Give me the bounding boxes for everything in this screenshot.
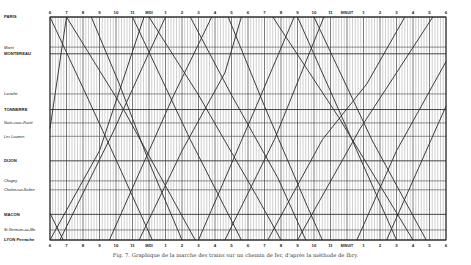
hour-label-top: 6 bbox=[247, 10, 250, 15]
hour-label-top: 8 bbox=[280, 10, 283, 15]
hour-label-bottom: 6 bbox=[247, 243, 250, 248]
train-path bbox=[50, 17, 152, 240]
hour-label-bottom: 4 bbox=[412, 243, 415, 248]
train-path bbox=[268, 17, 405, 240]
train-path bbox=[273, 17, 413, 240]
hour-label-bottom: 3 bbox=[197, 243, 200, 248]
hour-label-bottom: 7 bbox=[263, 243, 266, 248]
hour-label-bottom: 2 bbox=[379, 243, 382, 248]
hour-label-bottom: 11 bbox=[328, 243, 333, 248]
train-path bbox=[60, 17, 166, 240]
hour-label-top: 9 bbox=[296, 10, 299, 15]
hour-label-top: 5 bbox=[230, 10, 233, 15]
train-path bbox=[298, 17, 433, 240]
hour-label-top: 8 bbox=[82, 10, 85, 15]
hour-label-top: 2 bbox=[181, 10, 184, 15]
hour-label-top: MINUIT bbox=[341, 11, 354, 15]
hour-label-top: 1 bbox=[164, 10, 167, 15]
hour-label-bottom: 1 bbox=[362, 243, 365, 248]
station-labels: PARISMoretMONTEREAULarocheTONNERRENuits-… bbox=[4, 14, 35, 242]
station-label: TONNERRE bbox=[4, 107, 28, 112]
hour-label-bottom: MIDI bbox=[145, 244, 153, 248]
hour-label-bottom: 5 bbox=[428, 243, 431, 248]
hour-label-bottom: 11 bbox=[130, 243, 135, 248]
hour-label-top: 1 bbox=[362, 10, 365, 15]
hour-label-top: 7 bbox=[65, 10, 68, 15]
hour-label-bottom: 9 bbox=[296, 243, 299, 248]
train-path bbox=[109, 17, 211, 240]
station-label: Les Laumes bbox=[4, 135, 25, 139]
hour-label-top: 3 bbox=[395, 10, 398, 15]
station-label: MACON bbox=[4, 212, 20, 217]
station-label: Nuits-sous-Raviè bbox=[4, 121, 33, 125]
station-label: Chagny bbox=[4, 179, 18, 183]
hour-label-bottom: 6 bbox=[445, 243, 448, 248]
chart-canvas: 67891011MIDI1234567891011MINUIT123456 67… bbox=[0, 0, 471, 265]
hour-axis-bottom: 67891011MIDI1234567891011MINUIT123456 bbox=[49, 243, 448, 248]
hour-label-bottom: 9 bbox=[98, 243, 101, 248]
hour-label-top: 7 bbox=[263, 10, 266, 15]
figure-caption: Fig. 7. Graphique de la marche des train… bbox=[0, 252, 471, 258]
hour-label-bottom: 10 bbox=[114, 243, 119, 248]
train-path bbox=[228, 17, 322, 240]
hour-axis-top: 67891011MIDI1234567891011MINUIT123456 bbox=[49, 10, 448, 15]
hour-label-top: 4 bbox=[214, 10, 217, 15]
train-schedule-chart: 67891011MIDI1234567891011MINUIT123456 67… bbox=[0, 0, 471, 265]
hour-label-bottom: 1 bbox=[164, 243, 167, 248]
hour-label-top: 10 bbox=[114, 10, 119, 15]
station-label: Laroche bbox=[4, 92, 18, 96]
hour-label-bottom: MINUIT bbox=[341, 244, 354, 248]
hour-label-bottom: 5 bbox=[230, 243, 233, 248]
hour-label-top: 5 bbox=[428, 10, 431, 15]
time-grid bbox=[50, 17, 446, 240]
hour-label-bottom: 3 bbox=[395, 243, 398, 248]
station-label: Chalon-sur-Saône bbox=[4, 188, 35, 192]
hour-label-top: 2 bbox=[379, 10, 382, 15]
station-label: DIJON bbox=[4, 158, 17, 163]
hour-label-top: 11 bbox=[130, 10, 135, 15]
hour-label-bottom: 8 bbox=[82, 243, 85, 248]
station-label: Moret bbox=[4, 46, 15, 50]
train-path bbox=[357, 62, 446, 240]
station-label: MONTEREAU bbox=[4, 51, 31, 56]
hour-label-bottom: 4 bbox=[214, 243, 217, 248]
hour-label-top: 4 bbox=[412, 10, 415, 15]
hour-label-bottom: 2 bbox=[181, 243, 184, 248]
hour-label-top: 3 bbox=[197, 10, 200, 15]
station-label: St Germain-au-Mo bbox=[4, 228, 35, 232]
hour-label-top: 11 bbox=[328, 10, 333, 15]
hour-label-bottom: 6 bbox=[49, 243, 52, 248]
hour-label-top: 6 bbox=[49, 10, 52, 15]
station-label: LYON Perrache bbox=[4, 237, 35, 242]
hour-label-top: 10 bbox=[312, 10, 317, 15]
station-label: PARIS bbox=[4, 14, 17, 19]
hour-label-bottom: 7 bbox=[65, 243, 68, 248]
train-path bbox=[199, 17, 295, 240]
hour-label-bottom: 8 bbox=[280, 243, 283, 248]
train-path bbox=[387, 106, 446, 240]
hour-label-top: MIDI bbox=[145, 11, 153, 15]
hour-label-bottom: 10 bbox=[312, 243, 317, 248]
hour-label-top: 6 bbox=[445, 10, 448, 15]
hour-label-top: 9 bbox=[98, 10, 101, 15]
